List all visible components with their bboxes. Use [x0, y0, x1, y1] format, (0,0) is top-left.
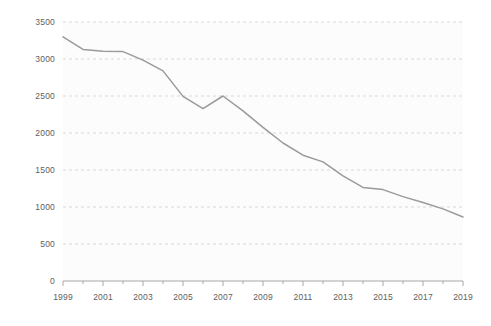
y-tick-label-2000: 2000 [7, 128, 55, 138]
x-tick-label-2001: 2001 [83, 292, 123, 302]
y-tick-label-0: 0 [7, 276, 55, 286]
y-tick-label-3000: 3000 [7, 54, 55, 64]
y-tick-label-3500: 3500 [7, 17, 55, 27]
chart-screenshot: 0500100015002000250030003500 19992001200… [0, 0, 491, 326]
x-tick-label-2011: 2011 [283, 292, 323, 302]
x-tick-label-2005: 2005 [163, 292, 203, 302]
y-tick-label-2500: 2500 [7, 91, 55, 101]
x-tick-label-2019: 2019 [443, 292, 483, 302]
y-tick-label-500: 500 [7, 239, 55, 249]
y-tick-label-1500: 1500 [7, 165, 55, 175]
x-tick-label-2017: 2017 [403, 292, 443, 302]
x-tick-label-2003: 2003 [123, 292, 163, 302]
line-chart [0, 0, 491, 326]
x-tick-label-2013: 2013 [323, 292, 363, 302]
x-tick-label-2007: 2007 [203, 292, 243, 302]
x-tick-label-2009: 2009 [243, 292, 283, 302]
series-line-0 [63, 37, 463, 217]
x-axis-ticks [63, 281, 463, 286]
x-tick-label-2015: 2015 [363, 292, 403, 302]
data-series-group [63, 37, 463, 217]
y-tick-label-1000: 1000 [7, 202, 55, 212]
gridlines-group [63, 22, 463, 244]
x-tick-label-1999: 1999 [43, 292, 83, 302]
